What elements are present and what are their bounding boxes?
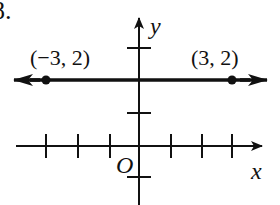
point-label-right: (3, 2): [191, 47, 239, 69]
y-axis-label: y: [150, 14, 161, 38]
x-axis-label: x: [251, 159, 262, 183]
problem-number: 8.: [0, 0, 12, 24]
coordinate-plane-figure: 8. (−3, 2) (3, 2) y x O: [0, 0, 280, 205]
origin-label: O: [116, 153, 133, 177]
point-neg3-2: [42, 76, 51, 85]
point-label-left: (−3, 2): [30, 47, 90, 69]
point-3-2: [228, 76, 237, 85]
graph-svg: [0, 0, 280, 205]
